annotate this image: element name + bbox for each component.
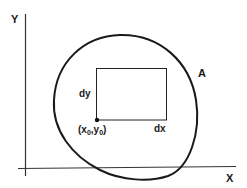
region-a-label: A [198,68,206,79]
area-element-rectangle [97,69,167,121]
region-a-boundary [54,35,197,180]
dx-label: dx [154,124,166,134]
area-element-diagram [0,0,247,188]
dy-label: dy [79,89,91,99]
x-axis [18,167,236,169]
y-axis-label: Y [11,14,18,25]
origin-label-suffix: ) [103,124,106,135]
origin-label: (x0,y0) [78,125,106,136]
origin-point [95,118,99,122]
origin-label-mid: ,y [91,124,99,135]
origin-label-prefix: (x [78,124,87,135]
x-axis-label: X [226,173,233,184]
